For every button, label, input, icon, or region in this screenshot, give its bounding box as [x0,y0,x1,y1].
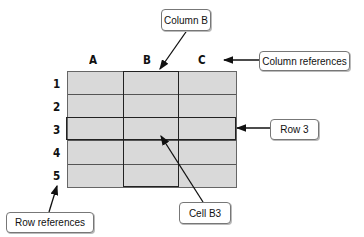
callout-cell-b3: Cell B3 [179,202,231,224]
callout-row-3: Row 3 [270,119,319,140]
callout-column-b: Column B [161,9,211,31]
callout-column-references: Column references [259,51,350,71]
arrow-icon [160,29,188,69]
callout-row-references: Row references [6,212,94,233]
arrow-icon [161,136,203,202]
arrow-icon [49,186,57,212]
